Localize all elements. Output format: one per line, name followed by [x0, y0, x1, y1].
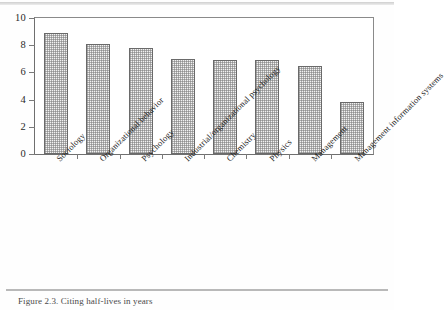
y-axis-tick [29, 18, 35, 19]
y-axis-tick [29, 72, 35, 73]
x-axis-tick [120, 154, 121, 159]
bar [44, 33, 68, 154]
bar [171, 59, 195, 154]
x-axis-tick [204, 154, 205, 159]
bar [298, 66, 322, 154]
y-axis-tick-label: 6 [21, 67, 26, 78]
page-rule-bottom [6, 289, 388, 291]
x-axis-tick [331, 154, 332, 159]
bar [129, 48, 153, 154]
y-axis-tick [29, 45, 35, 46]
x-axis-tick [77, 154, 78, 159]
y-axis-tick-label: 10 [15, 13, 26, 24]
y-axis-tick-label: 4 [21, 94, 26, 105]
x-axis-tick [246, 154, 247, 159]
page-rule-top [0, 2, 394, 5]
x-axis-tick [289, 154, 290, 159]
bar [86, 44, 110, 154]
y-axis-tick-label: 2 [21, 122, 26, 133]
y-axis-tick-label: 8 [21, 40, 26, 51]
figure-caption: Figure 2.3. Citing half-lives in years [18, 296, 153, 306]
x-axis-tick [162, 154, 163, 159]
y-axis-tick [29, 100, 35, 101]
bar-slot [289, 18, 331, 154]
bar-slot [35, 18, 77, 154]
y-axis-tick [29, 154, 35, 155]
y-axis-tick-label: 0 [21, 149, 26, 160]
y-axis-tick [29, 127, 35, 128]
